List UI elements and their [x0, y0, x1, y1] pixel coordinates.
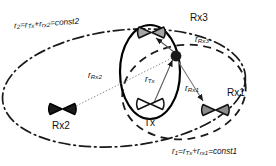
antenna-rx3: [138, 27, 166, 38]
label-tx: Tx: [144, 117, 155, 128]
label-rx3: Rx3: [190, 12, 208, 23]
figure-canvas: r2=rTx+rrx2=const2 r1=rTx+rrx1=const1 Rx…: [0, 0, 276, 166]
label-r-rx3: rRx3: [195, 34, 209, 44]
scatterer-point: [171, 51, 182, 62]
label-rx2: Rx2: [52, 120, 70, 131]
label-rx1: Rx1: [227, 87, 245, 98]
label-r-rx1: rRx1: [185, 83, 199, 93]
label-const1-equation: r1=rTx+rrx1=const1: [172, 147, 237, 156]
label-r-rx2: rRx2: [88, 70, 102, 80]
antenna-rx1: [202, 105, 230, 116]
antenna-rx2: [49, 104, 77, 115]
label-r-tx: rTx: [145, 74, 155, 84]
ellipse-rx2-constant-range: [0, 18, 251, 159]
ellipse-rx3-constant-range: [120, 25, 180, 119]
antenna-tx: [137, 99, 164, 110]
path-scatterer-to-rx1: [178, 61, 203, 101]
path-scatterer-to-rx2: [74, 58, 172, 107]
